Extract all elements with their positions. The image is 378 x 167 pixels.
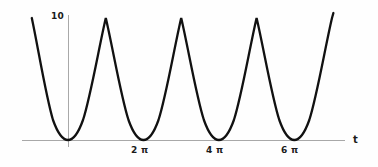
chart-figure: 10 2 π 4 π 6 π t [0,0,378,167]
x-tick-label-2pi: 2 π [131,145,148,155]
plot-canvas [0,0,378,167]
x-tick-label-4pi: 4 π [206,145,223,155]
x-tick-label-6pi: 6 π [281,145,298,155]
x-axis-name-label: t [353,134,358,145]
data-curve [32,13,334,140]
y-axis-max-label: 10 [51,11,64,21]
